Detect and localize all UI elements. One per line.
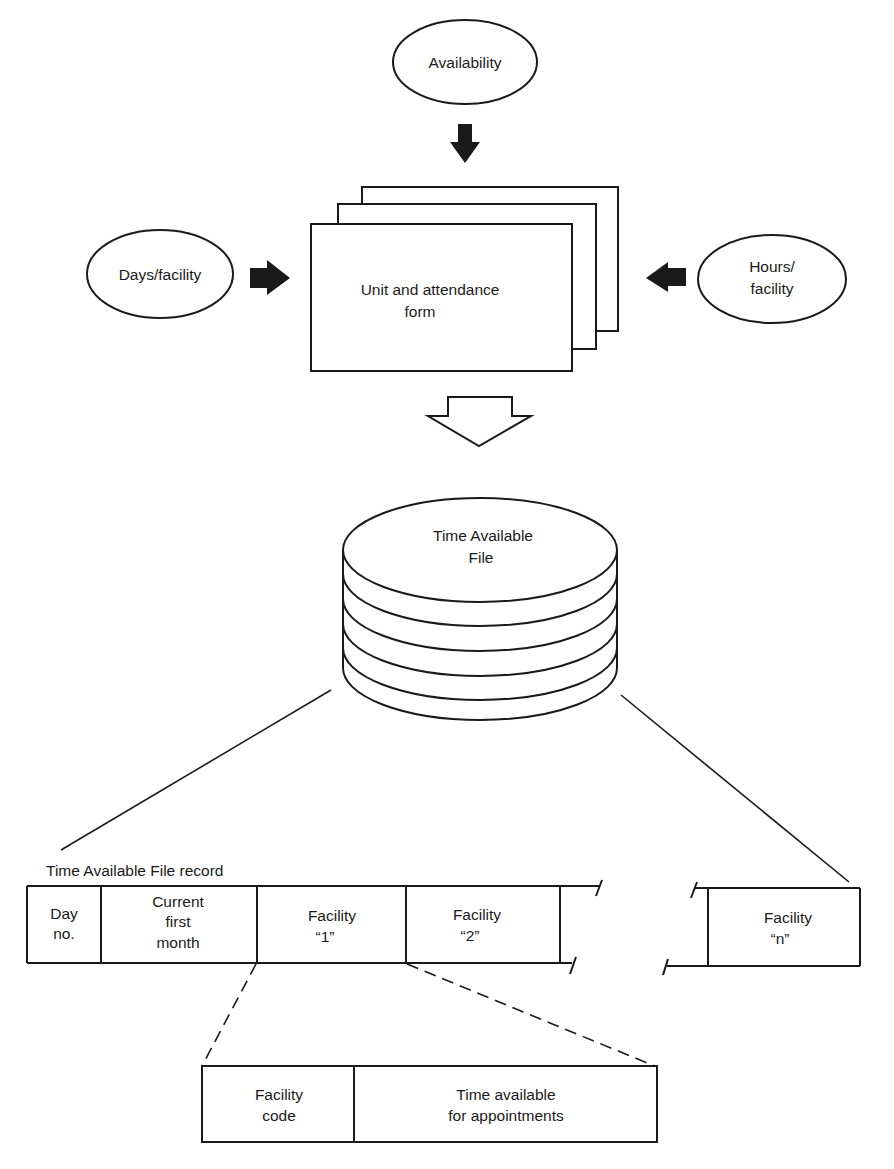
- detail-field-code-line2: code: [262, 1107, 296, 1124]
- record-field-facilityn-line2: “n”: [771, 930, 790, 947]
- record-field-facility1-line1: Facility: [308, 907, 356, 924]
- availability-label: Availability: [429, 54, 502, 71]
- arrow-left-icon: [646, 262, 686, 292]
- hours-facility-label-line2: facility: [750, 280, 793, 297]
- hollow-arrow-down-icon: [428, 397, 531, 446]
- record-field-facility2-line1: Facility: [453, 906, 501, 923]
- file-label-line2: File: [469, 549, 494, 566]
- hours-facility-label-line1: Hours/: [749, 258, 795, 275]
- form-label-line1: Unit and attendance: [361, 281, 500, 298]
- record-field-day-line1: Day: [50, 905, 78, 922]
- record-field-month-line1: Current: [152, 893, 204, 910]
- hours-facility-node: [698, 235, 846, 323]
- facility-detail-record: [202, 1066, 657, 1142]
- diagram-canvas: Availability Days/facility Hours/ facili…: [0, 0, 894, 1169]
- record-field-month-line2: first: [166, 913, 192, 930]
- days-facility-label: Days/facility: [119, 266, 202, 283]
- record-field-facility1-line2: “1”: [316, 928, 335, 945]
- detail-field-time-line1: Time available: [456, 1086, 555, 1103]
- arrow-right-icon: [250, 260, 290, 295]
- record-field-facility2-line2: “2”: [461, 927, 480, 944]
- form-label-line2: form: [405, 303, 436, 320]
- facility-expansion-lines: [202, 964, 657, 1067]
- arrow-down-icon: [450, 124, 480, 163]
- record-field-month-line3: month: [156, 934, 199, 951]
- record-title: Time Available File record: [46, 862, 223, 879]
- record-field-facilityn-line1: Facility: [764, 909, 812, 926]
- record-field-day-line2: no.: [53, 925, 75, 942]
- file-label-line1: Time Available: [433, 527, 533, 544]
- detail-field-time-line2: for appointments: [448, 1107, 564, 1124]
- unit-attendance-form-stack: [311, 187, 618, 371]
- detail-field-code-line1: Facility: [255, 1086, 303, 1103]
